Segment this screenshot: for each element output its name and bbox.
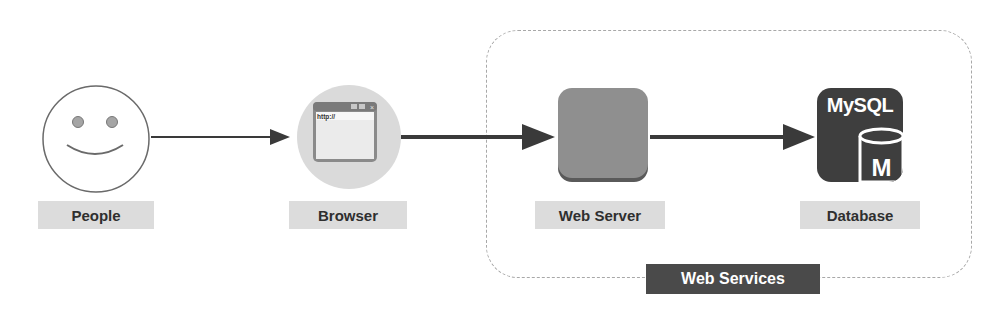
web-services-group-label: Web Services: [646, 264, 820, 294]
browser-label: Browser: [289, 201, 407, 229]
arrow-people-to-browser: [151, 129, 290, 145]
browser-window-icon: × http://: [296, 84, 402, 190]
database-label: Database: [800, 201, 920, 229]
web-server-label: Web Server: [535, 201, 665, 229]
arrow-webserver-to-database: [650, 124, 815, 150]
cylinder-letter: M: [872, 154, 892, 181]
people-label: People: [38, 201, 154, 229]
arrow-browser-to-webserver: [401, 124, 555, 150]
mysql-brand-text: MySQL: [817, 94, 903, 117]
browser-url-text: http://: [317, 113, 335, 121]
database-cylinder-icon: M: [857, 126, 903, 182]
smiley-face-icon: [40, 83, 152, 195]
mysql-database-icon: MySQL M: [817, 88, 903, 182]
svg-text:×: ×: [370, 104, 374, 111]
server-block-icon: [558, 88, 648, 178]
